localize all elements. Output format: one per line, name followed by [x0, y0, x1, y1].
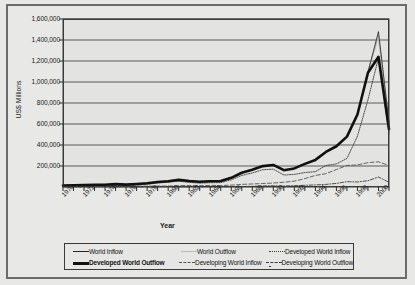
legend-label-world-outflow: World Outflow: [197, 248, 236, 255]
x-axis-title: Year: [160, 222, 175, 229]
legend-swatch-developed-world-outflow: [73, 258, 89, 267]
legend-label-world-inflow: World Inflow: [89, 248, 123, 255]
legend-row-1: World Inflow World Outflow Developed Wor…: [65, 246, 353, 257]
legend-item-world-outflow[interactable]: World Outflow: [181, 246, 269, 257]
legend-item-developing-world-inflow[interactable]: Developing World Inflow: [179, 257, 265, 268]
figure-canvas: 1,600,0001,400,0001,200,0001,000,000800,…: [0, 0, 415, 285]
legend-label-developed-world-outflow: Developed World Outflow: [89, 259, 165, 266]
legend-item-developed-world-outflow[interactable]: Developed World Outflow: [73, 257, 179, 268]
legend-swatch-developed-world-inflow: [269, 247, 285, 256]
legend-item-developing-world-outflow[interactable]: Developing World Outflow: [266, 257, 353, 268]
legend-item-world-inflow[interactable]: World Inflow: [73, 246, 181, 257]
series-line: [63, 36, 389, 186]
legend-item-developed-world-inflow[interactable]: Developed World Inflow: [269, 246, 350, 257]
legend-label-developed-world-inflow: Developed World Inflow: [285, 248, 350, 255]
legend-swatch-developing-world-inflow: [179, 258, 195, 267]
legend-row-2: Developed World Outflow Developing World…: [65, 257, 353, 268]
series-line: [63, 32, 389, 186]
series-line: [63, 58, 389, 186]
legend-swatch-world-outflow: [181, 247, 197, 256]
legend-swatch-world-inflow: [73, 247, 89, 256]
legend-swatch-developing-world-outflow: [266, 258, 282, 267]
legend-label-developing-world-outflow: Developing World Outflow: [282, 259, 353, 266]
chart-legend: World Inflow World Outflow Developed Wor…: [64, 243, 354, 270]
legend-label-developing-world-inflow: Developing World Inflow: [195, 259, 262, 266]
